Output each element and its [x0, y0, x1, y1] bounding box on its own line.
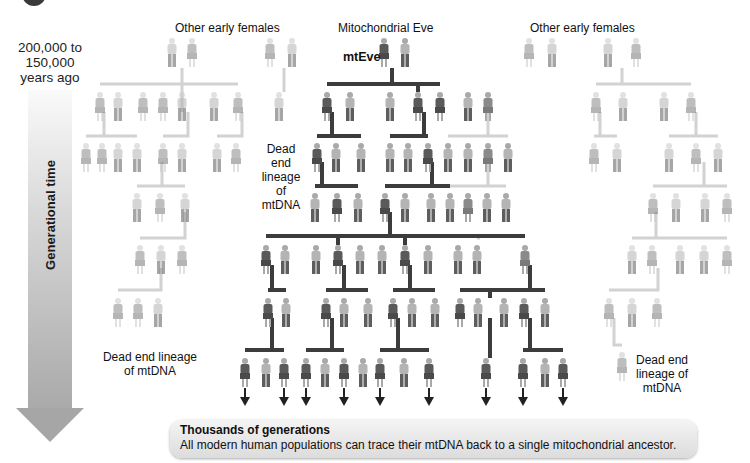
- male-figure: [424, 245, 433, 274]
- male-figure: [446, 193, 455, 222]
- female-figure: [647, 245, 657, 274]
- male-figure: [504, 143, 513, 172]
- female-figure: [722, 245, 732, 274]
- female-figure: [155, 193, 165, 222]
- male-figure: [431, 298, 440, 327]
- female-figure: [333, 245, 343, 274]
- arrow-down-icon: [339, 397, 349, 406]
- female-figure: [332, 193, 342, 222]
- male-figure: [114, 92, 123, 121]
- male-figure: [473, 245, 482, 274]
- male-figure: [281, 245, 290, 274]
- female-figure: [524, 38, 534, 67]
- male-figure: [401, 38, 410, 67]
- female-figure: [187, 38, 197, 67]
- note-body: All modern human populations can trace t…: [180, 438, 676, 452]
- arrow-down-icon: [558, 397, 568, 406]
- male-figure: [154, 298, 163, 327]
- female-figure: [240, 358, 250, 387]
- male-figure: [502, 193, 511, 222]
- note-title: Thousands of generations: [180, 423, 330, 437]
- female-figure: [138, 92, 148, 121]
- female-figure: [435, 92, 445, 121]
- male-figure: [427, 193, 436, 222]
- male-figure: [312, 245, 321, 274]
- female-figure: [261, 245, 271, 274]
- female-figure: [413, 92, 423, 121]
- male-figure: [700, 245, 709, 274]
- male-figure: [364, 298, 373, 327]
- other-early-females-right-label: Other early females: [530, 21, 635, 35]
- male-figure: [619, 92, 628, 121]
- mteve-label: mtEve: [343, 50, 381, 64]
- female-figure: [617, 352, 627, 381]
- male-figure: [500, 298, 509, 327]
- female-figure: [375, 358, 385, 387]
- female-figure: [231, 143, 241, 172]
- male-figure: [548, 38, 557, 67]
- female-figure: [558, 358, 568, 387]
- male-figure: [357, 143, 366, 172]
- male-figure: [604, 38, 613, 67]
- female-figure: [722, 193, 732, 222]
- male-figure: [628, 245, 637, 274]
- male-figure: [133, 143, 142, 172]
- male-figure: [288, 38, 297, 67]
- descendant-arrows: [240, 388, 568, 406]
- arrow-down-icon: [240, 397, 250, 406]
- male-figure: [401, 193, 410, 222]
- male-figure: [282, 298, 291, 327]
- male-figure: [346, 92, 355, 121]
- male-figure: [275, 92, 284, 121]
- dead-end-line-1: Dead end lineage: [100, 350, 200, 364]
- male-figure: [676, 245, 685, 274]
- dead-end-label-bottom-left: Dead end lineage of mtDNA: [100, 350, 200, 378]
- male-figure: [332, 143, 341, 172]
- male-figure: [665, 143, 674, 172]
- male-figure: [178, 143, 187, 172]
- female-figure: [321, 298, 331, 327]
- male-figure: [464, 92, 473, 121]
- dead-end-line-1: Dead end: [634, 353, 690, 367]
- male-figure: [340, 298, 349, 327]
- arrow-down-icon: [279, 397, 289, 406]
- female-figure: [481, 358, 491, 387]
- male-figure: [408, 298, 417, 327]
- female-figure: [455, 298, 465, 327]
- male-figure: [114, 143, 123, 172]
- male-figure: [628, 298, 637, 327]
- male-figure: [714, 143, 723, 172]
- male-figure: [356, 245, 365, 274]
- female-figure: [519, 298, 529, 327]
- female-figure: [339, 358, 349, 387]
- arrow-down-icon: [375, 397, 385, 406]
- female-figure: [158, 92, 168, 121]
- female-figure: [518, 358, 528, 387]
- male-figure: [321, 358, 330, 387]
- male-figure: [444, 143, 453, 172]
- male-figure: [386, 143, 395, 172]
- male-figure: [404, 143, 413, 172]
- male-figure: [386, 92, 395, 121]
- dead-end-line-3: mtDNA: [255, 198, 307, 212]
- female-figure: [652, 298, 662, 327]
- arrow-down-icon: [518, 397, 528, 406]
- male-figure: [354, 193, 363, 222]
- female-figure: [424, 358, 434, 387]
- mitochondrial-eve-label: Mitochondrial Eve: [338, 21, 433, 35]
- male-figure: [613, 143, 622, 172]
- arrow-down-icon: [481, 397, 491, 406]
- male-figure: [400, 358, 409, 387]
- arrow-down-icon: [424, 397, 434, 406]
- male-figure: [701, 193, 710, 222]
- male-figure: [454, 245, 463, 274]
- female-figure: [279, 358, 289, 387]
- female-figure: [301, 358, 311, 387]
- dead-end-line-2: of mtDNA: [100, 364, 200, 378]
- male-figure: [213, 143, 222, 172]
- male-figure: [672, 193, 681, 222]
- male-figure: [133, 193, 142, 222]
- summary-note: Thousands of generations All modern huma…: [170, 420, 697, 458]
- female-figure: [113, 298, 123, 327]
- female-figure: [463, 193, 473, 222]
